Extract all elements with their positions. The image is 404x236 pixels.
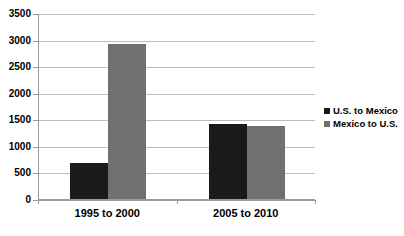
bar-chart: 0500100015002000250030003500 1995 to 200… bbox=[0, 0, 404, 236]
plot-area bbox=[38, 14, 315, 200]
y-axis-tick-label: 0 bbox=[0, 194, 31, 205]
x-axis-category-label: 2005 to 2010 bbox=[186, 207, 306, 219]
legend-item-mexico-to-us[interactable]: Mexico to U.S. bbox=[324, 119, 398, 129]
gridline bbox=[39, 67, 315, 68]
gridline bbox=[39, 41, 315, 42]
x-axis-tick bbox=[38, 200, 39, 204]
y-axis-tick-label: 1000 bbox=[0, 141, 31, 152]
gridline bbox=[39, 14, 315, 15]
x-axis-tick bbox=[315, 200, 316, 204]
y-axis-tick-label: 3000 bbox=[0, 35, 31, 46]
y-axis-tick-label: 2000 bbox=[0, 88, 31, 99]
y-axis-tick-label: 2500 bbox=[0, 61, 31, 72]
y-axis-tick-label: 3500 bbox=[0, 8, 31, 19]
legend-item-label: U.S. to Mexico bbox=[333, 106, 398, 116]
bar-us-to-mexico[interactable] bbox=[70, 163, 108, 199]
y-axis-tick-label: 1500 bbox=[0, 114, 31, 125]
bar-us-to-mexico[interactable] bbox=[209, 124, 247, 199]
x-axis-tick bbox=[177, 200, 178, 204]
legend-swatch-icon bbox=[324, 121, 330, 127]
bar-mexico-to-us[interactable] bbox=[247, 126, 285, 199]
x-axis-category-label: 1995 to 2000 bbox=[47, 207, 167, 219]
legend-item-us-to-mexico[interactable]: U.S. to Mexico bbox=[324, 106, 398, 116]
y-axis-tick-label: 500 bbox=[0, 167, 31, 178]
gridline bbox=[39, 120, 315, 121]
legend-swatch-icon bbox=[324, 108, 330, 114]
gridline bbox=[39, 94, 315, 95]
bar-mexico-to-us[interactable] bbox=[108, 44, 146, 199]
legend-item-label: Mexico to U.S. bbox=[333, 119, 398, 129]
chart-legend: U.S. to Mexico Mexico to U.S. bbox=[324, 106, 398, 132]
